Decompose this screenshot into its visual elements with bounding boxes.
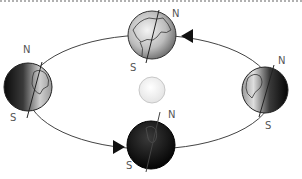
globe-top-icon [128,10,176,63]
globe-left-icon [4,62,52,118]
label-top-south: S [130,63,136,73]
label-right-south: S [265,121,271,131]
arrow-left-icon [181,29,193,43]
globe-right-icon [242,65,288,117]
label-right-north: N [278,56,285,66]
label-left-north: N [23,45,30,55]
label-top-north: N [172,9,179,19]
label-bottom-south: S [126,161,132,171]
label-bottom-north: N [168,110,175,120]
label-left-south: S [10,113,16,123]
sun-icon [139,77,165,103]
orbit-diagram [0,0,302,179]
globe-bottom-icon [127,112,175,172]
arrow-right-icon [113,140,125,154]
